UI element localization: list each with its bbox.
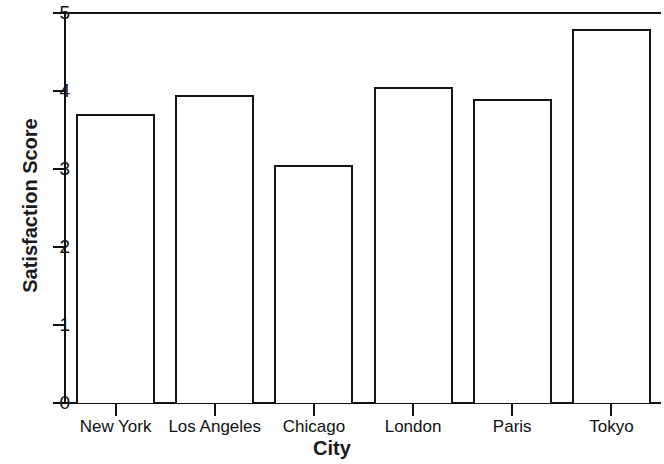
bar-new-york: [76, 114, 155, 403]
x-axis-title: City: [0, 437, 664, 460]
x-tick-mark: [214, 404, 216, 416]
bar-tokyo: [572, 29, 651, 403]
y-tick-mark: [53, 168, 66, 170]
bar-chicago: [274, 165, 353, 403]
bar-los-angeles: [175, 95, 254, 403]
y-tick-mark: [53, 324, 66, 326]
bar-london: [374, 87, 453, 403]
y-axis-ticks: 543210: [0, 0, 70, 464]
y-tick-mark: [53, 246, 66, 248]
plot-top-border: [64, 12, 661, 14]
x-tick-mark: [412, 404, 414, 416]
x-tick-mark: [511, 404, 513, 416]
x-tick-label: Paris: [463, 417, 562, 437]
bar-chart: Satisfaction Score 543210 New YorkLos An…: [0, 0, 664, 464]
x-tick-label: New York: [66, 417, 165, 437]
x-tick-label: London: [364, 417, 463, 437]
y-tick-mark: [53, 12, 66, 14]
bar-paris: [473, 99, 552, 403]
x-tick-label: Tokyo: [562, 417, 661, 437]
x-tick-label: Los Angeles: [165, 417, 264, 437]
x-tick-mark: [115, 404, 117, 416]
x-tick-label: Chicago: [264, 417, 363, 437]
x-tick-mark: [610, 404, 612, 416]
x-tick-mark: [313, 404, 315, 416]
y-tick-mark: [53, 402, 66, 404]
y-tick-mark: [53, 90, 66, 92]
